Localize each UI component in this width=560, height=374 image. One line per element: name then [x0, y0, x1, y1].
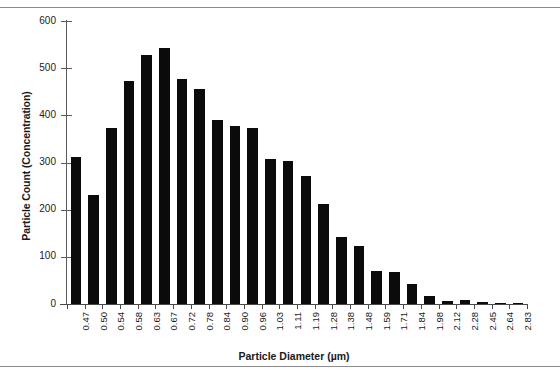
- y-tick-label-text: 200: [16, 204, 56, 214]
- y-tick-label-text: 300: [16, 157, 56, 167]
- bar: [424, 296, 435, 304]
- x-tick-mark: [262, 305, 263, 309]
- bar: [389, 272, 400, 304]
- bar: [354, 246, 365, 304]
- bottom-border-rule: [0, 366, 560, 367]
- x-tick-mark: [403, 305, 404, 309]
- bar: [230, 126, 241, 304]
- x-tick-mark: [297, 305, 298, 309]
- x-tick-label: 2.83: [522, 312, 533, 331]
- x-tick-label: 1.84: [416, 312, 427, 331]
- x-tick-label: 1.28: [328, 312, 339, 331]
- y-tick-label: 0: [16, 299, 56, 309]
- y-tick-label: 300: [16, 157, 56, 167]
- bar: [71, 157, 82, 304]
- bar: [442, 301, 453, 304]
- bar: [194, 89, 205, 304]
- x-tick-mark: [120, 305, 121, 309]
- x-tick-label: 1.48: [363, 312, 374, 331]
- x-tick-mark: [226, 305, 227, 309]
- x-tick-label: 0.78: [204, 312, 215, 331]
- x-tick-label: 1.71: [398, 312, 409, 331]
- x-tick-mark: [474, 305, 475, 309]
- y-tick-label: 500: [16, 63, 56, 73]
- bar: [371, 271, 382, 304]
- x-tick-label: 0.84: [221, 312, 232, 331]
- x-tick-label: 2.28: [469, 312, 480, 331]
- bar: [495, 303, 506, 304]
- x-tick-label: 1.03: [274, 312, 285, 331]
- x-tick-mark: [439, 305, 440, 309]
- x-tick-mark: [421, 305, 422, 309]
- x-tick-label: 1.19: [310, 312, 321, 331]
- chart-figure: Particle Count (Concentration) Particle …: [0, 0, 560, 374]
- bar: [301, 176, 312, 304]
- y-tick-label: 100: [16, 251, 56, 261]
- y-tick-label: 200: [16, 204, 56, 214]
- x-tick-mark: [509, 305, 510, 309]
- bar: [318, 204, 329, 304]
- bar: [106, 128, 117, 304]
- x-tick-mark: [191, 305, 192, 309]
- y-tick-label: 400: [16, 110, 56, 120]
- bar: [460, 300, 471, 304]
- x-tick-mark: [350, 305, 351, 309]
- x-tick-label: 2.45: [487, 312, 498, 331]
- bar: [336, 237, 347, 304]
- x-tick-label: 1.98: [434, 312, 445, 331]
- x-tick-label: 1.59: [381, 312, 392, 331]
- x-tick-label: 2.12: [451, 312, 462, 331]
- bar: [265, 159, 276, 304]
- x-tick-mark: [332, 305, 333, 309]
- x-tick-label: 0.67: [168, 312, 179, 331]
- bar: [124, 81, 135, 304]
- x-tick-mark: [138, 305, 139, 309]
- x-axis-line: [60, 304, 528, 305]
- x-axis-title: Particle Diameter (µm): [60, 350, 528, 362]
- x-tick-mark: [527, 305, 528, 309]
- x-tick-mark: [492, 305, 493, 309]
- bar: [477, 302, 488, 304]
- x-tick-mark: [368, 305, 369, 309]
- x-tick-mark: [173, 305, 174, 309]
- bar: [407, 284, 418, 304]
- bar-series: [67, 21, 527, 304]
- x-tick-label: 0.54: [115, 312, 126, 331]
- x-tick-mark: [385, 305, 386, 309]
- top-border-rule: [0, 7, 560, 8]
- x-tick-label: 0.50: [98, 312, 109, 331]
- x-tick-mark: [456, 305, 457, 309]
- bar: [88, 195, 99, 304]
- x-tick-label: 1.38: [345, 312, 356, 331]
- y-tick-label: 600: [16, 16, 56, 26]
- y-tick-label-text: 0: [16, 299, 56, 309]
- x-tick-label: 0.90: [239, 312, 250, 331]
- x-tick-mark: [279, 305, 280, 309]
- x-tick-label: 2.64: [504, 312, 515, 331]
- x-tick-mark: [315, 305, 316, 309]
- bar: [159, 48, 170, 304]
- x-tick-label: 0.96: [257, 312, 268, 331]
- y-tick-label-text: 600: [16, 16, 56, 26]
- x-tick-label: 0.47: [80, 312, 91, 331]
- x-tick-mark: [244, 305, 245, 309]
- x-tick-label: 0.58: [133, 312, 144, 331]
- bar: [141, 55, 152, 305]
- bar: [177, 79, 188, 304]
- bar: [513, 303, 524, 304]
- x-tick-label: 0.72: [186, 312, 197, 331]
- x-tick-mark: [209, 305, 210, 309]
- bar: [247, 128, 258, 304]
- x-tick-label: 0.63: [151, 312, 162, 331]
- y-tick-label-text: 400: [16, 110, 56, 120]
- x-tick-mark: [155, 305, 156, 309]
- y-tick-label-text: 500: [16, 63, 56, 73]
- x-tick-label: 1.11: [292, 312, 303, 330]
- bar: [212, 120, 223, 304]
- y-tick-label-text: 100: [16, 251, 56, 261]
- x-tick-mark: [102, 305, 103, 309]
- x-tick-mark: [67, 305, 68, 309]
- bar: [283, 161, 294, 304]
- x-tick-mark: [85, 305, 86, 309]
